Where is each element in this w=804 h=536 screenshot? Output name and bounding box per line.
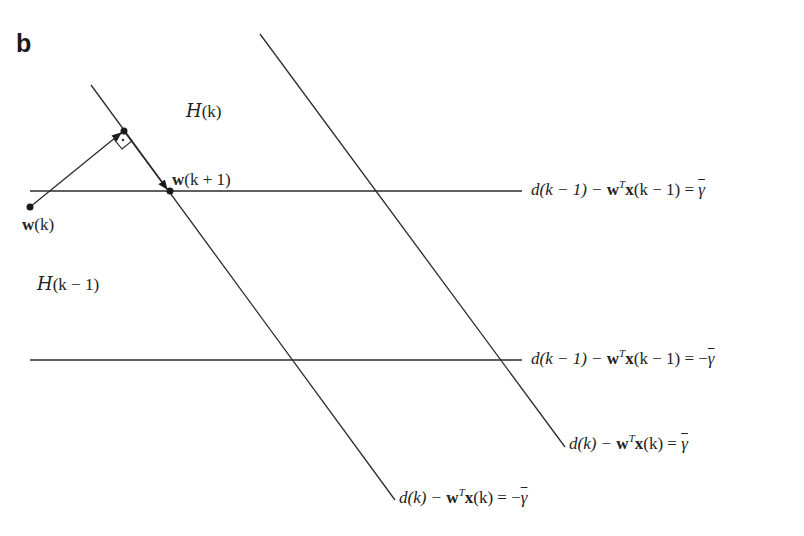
- constraint-label-curr-upper: d(k) − wTx(k) = γ: [569, 434, 688, 454]
- point-w-k: [27, 204, 34, 211]
- region-label-h-k-minus-1: H(k − 1): [37, 273, 99, 295]
- constraint-label-curr-lower: d(k) − wTx(k) = −γ: [399, 488, 527, 508]
- panel-label: b: [16, 29, 31, 58]
- constraint-label-prev-upper: d(k − 1) − wTx(k − 1) = γ: [531, 180, 705, 200]
- point-label-w-k: w(k): [22, 215, 54, 235]
- diagram-canvas: [0, 0, 804, 536]
- region-label-h-k: H(k): [186, 100, 222, 122]
- constraint-label-prev-lower: d(k − 1) − wTx(k − 1) = −γ: [531, 349, 715, 369]
- point-projection-foot: [121, 128, 128, 135]
- point-label-w-k-plus-1: w(k + 1): [172, 170, 231, 190]
- projection-arrow: [30, 133, 121, 207]
- constraint-line-curr-upper: [260, 34, 565, 447]
